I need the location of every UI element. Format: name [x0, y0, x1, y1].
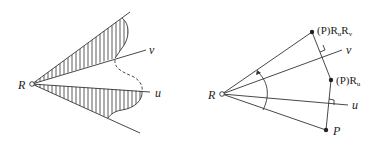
origin-label: R — [17, 78, 26, 92]
diagram-canvas: R v u R v u P (P)Ru (P)RuRv — [0, 0, 381, 146]
subscript-2: v — [349, 30, 353, 38]
subscript: u — [357, 80, 361, 88]
right-diagram: R v u P (P)Ru (P)RuRv — [207, 24, 361, 138]
lower-region-curve — [108, 91, 142, 118]
prefix: (P) — [317, 24, 331, 37]
right-angle-mark-v — [320, 45, 325, 52]
point-P-label: P — [332, 124, 341, 138]
ray-v-label: v — [149, 43, 155, 57]
ray-to-P — [222, 94, 326, 130]
upper-boundary-ray — [32, 12, 130, 84]
ray-u-label: u — [155, 86, 161, 100]
ray-v — [222, 50, 342, 94]
point-PRu-label: (P)Ru — [336, 74, 361, 88]
ray-to-PRuRv — [222, 32, 312, 94]
upper-region-curve — [115, 18, 128, 58]
point-P — [324, 128, 328, 132]
prefix: (P) — [336, 74, 350, 87]
left-diagram: R v u — [17, 0, 161, 146]
segment-PRuRv-to-PRu — [312, 32, 331, 80]
ray-u — [32, 84, 150, 92]
dashed-connector-curve — [115, 60, 142, 91]
svg-text:(P)Ru: (P)Ru — [336, 74, 361, 88]
ray-u-label: u — [352, 98, 358, 112]
upper-hatched-region — [36, 0, 128, 146]
segment-PRu-to-P — [326, 80, 331, 130]
origin-circle — [30, 82, 35, 87]
svg-text:(P)RuRv: (P)RuRv — [317, 24, 353, 38]
point-PRuRv — [310, 30, 314, 34]
origin-circle — [220, 92, 225, 97]
point-PRuRv-label: (P)RuRv — [317, 24, 353, 38]
origin-label: R — [207, 88, 216, 102]
point-PRu — [329, 78, 333, 82]
ray-v-label: v — [346, 43, 352, 57]
ray-v — [32, 50, 146, 84]
